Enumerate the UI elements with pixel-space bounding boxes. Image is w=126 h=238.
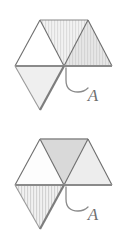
- bottom-figure-drawing: A: [0, 119, 126, 238]
- label-a: A: [87, 205, 99, 224]
- top-figure-panel: A: [0, 0, 126, 119]
- lower-triangle: [15, 185, 64, 229]
- bottom-figure-panel: A: [0, 119, 126, 238]
- lower-triangle: [15, 66, 64, 110]
- label-a: A: [87, 86, 99, 105]
- leader-curve: [66, 187, 88, 211]
- top-figure-drawing: A: [0, 0, 126, 119]
- figure-stack: A A: [0, 0, 126, 238]
- leader-curve: [66, 68, 88, 92]
